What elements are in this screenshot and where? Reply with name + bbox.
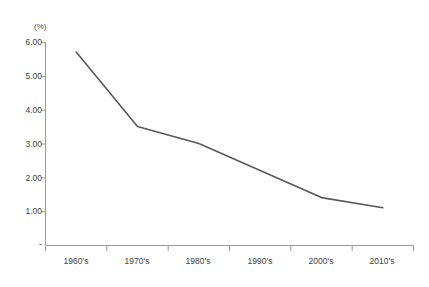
x-tick-label-2000s: 2000's bbox=[293, 257, 349, 266]
x-axis-labels: 1960's 1970's 1980's 1990's 2000's 2010'… bbox=[0, 0, 429, 287]
x-tick-label-1990s: 1990's bbox=[232, 257, 288, 266]
x-tick-label-1970s: 1970's bbox=[109, 257, 165, 266]
x-tick-label-1980s: 1980's bbox=[170, 257, 226, 266]
x-tick-label-2010s: 2010's bbox=[354, 257, 410, 266]
x-tick-label-1960s: 1960's bbox=[48, 257, 104, 266]
line-chart: (%) 6.00 5.00 4.00 bbox=[0, 0, 429, 287]
